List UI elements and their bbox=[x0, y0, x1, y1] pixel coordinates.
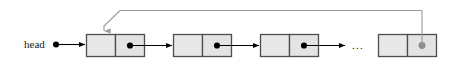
node-1-data-cell bbox=[87, 35, 116, 57]
node-4-data-cell bbox=[379, 35, 408, 57]
node-3-data-cell bbox=[261, 35, 290, 57]
diagram-canvas: head ... bbox=[0, 0, 458, 65]
node-2-data-cell bbox=[174, 35, 203, 57]
linked-list-diagram: head ... bbox=[0, 0, 458, 65]
head-label: head bbox=[24, 38, 45, 50]
ellipsis-label: ... bbox=[352, 39, 364, 51]
node-4 bbox=[379, 35, 437, 57]
